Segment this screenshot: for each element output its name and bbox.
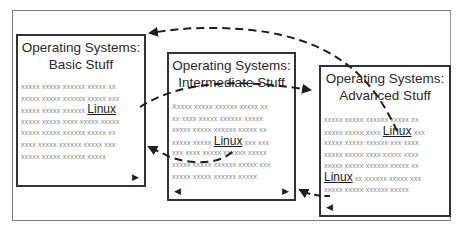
linux-link[interactable]: Linux (214, 134, 243, 148)
text-line: xxxxx xxxxx xxxx Linux xxx (324, 126, 446, 138)
text-line: xxxxx xxxxx xxxxxx xxxxx (172, 171, 291, 183)
text-line: xx xxxx xxxxx xxxxxx xxxxx (172, 113, 291, 125)
prev-page-arrow-icon[interactable]: ◀ (174, 186, 181, 196)
page-title: Operating Systems: Intermediate Stuff (169, 57, 294, 91)
text-line: xxxxx xxxxx xxxxxx xxx xxxx (324, 137, 446, 149)
text-line: xxxxx xxxxx xxxxxx xxxxx xxx (172, 159, 291, 171)
text-line: xxxxx xxxxx xxxx xxxxx xxxx (324, 149, 446, 161)
page-advanced-stuff: Operating Systems: Advanced Stuff xxxxx … (319, 65, 451, 217)
text-line: xxxxx xxxxx xxxxxx xxxxx xxx (21, 93, 141, 105)
title-line-2: Intermediate Stuff (171, 74, 292, 91)
next-page-arrow-icon[interactable]: ▶ (282, 186, 289, 196)
page-body: xxxxx xxxxx xxxxxx xxxxx xx xxxxx xxxxx … (18, 81, 144, 162)
text-line: xxxx xxxxx xxxxxx xxxxx xxx (21, 139, 141, 151)
page-intermediate-stuff: Operating Systems: Intermediate Stuff Xx… (167, 52, 296, 201)
text-line: xxxxx xxxxx xxxxxx xxxxx (21, 151, 141, 163)
title-line-1: Operating Systems: (171, 57, 292, 74)
linux-link[interactable]: Linux (324, 170, 353, 184)
linux-link[interactable]: Linux (383, 124, 412, 138)
next-page-arrow-icon[interactable]: ▶ (132, 172, 139, 182)
text-line: Xxxxx xxxxx xxxxxx xxxxx xx (172, 101, 291, 113)
page-title: Operating Systems: Basic Stuff (18, 39, 144, 73)
linux-link[interactable]: Linux (87, 102, 116, 116)
text-line: xxxxx xxxxx xxxxxx xxxxx xx (21, 127, 141, 139)
title-line-2: Advanced Stuff (323, 87, 447, 104)
page-body: xxxxx xxxxx xxxxxx xxxxx xx xxxxx xxxxx … (321, 114, 449, 195)
text-line: xxxxx xxxxx xxxxxx xxxxx xx (21, 81, 141, 93)
page-basic-stuff: Operating Systems: Basic Stuff xxxxx xxx… (16, 34, 146, 187)
text-line: xxxxx xxxxx xxxxxx xxxxx (324, 184, 446, 196)
text-line: xxx xxxx xxxxx xxxxxx xxxxx (172, 147, 291, 159)
text-line: Linux xx xxxxxx xxxxx xxx (324, 172, 446, 184)
title-line-2: Basic Stuff (20, 56, 142, 73)
page-body: Xxxxx xxxxx xxxxxx xxxxx xx xx xxxx xxxx… (169, 101, 294, 182)
prev-page-arrow-icon[interactable]: ◀ (326, 202, 333, 212)
text-line: xxxxx xxxxx xxxxxx Linux (21, 104, 141, 116)
text-line: xxxxx xxxxx xxxx xxxxx xxxxx (21, 116, 141, 128)
title-line-1: Operating Systems: (20, 39, 142, 56)
title-line-1: Operating Systems: (323, 70, 447, 87)
page-title: Operating Systems: Advanced Stuff (321, 70, 449, 104)
text-line: xxxxx xxxxx Linux xxx xxx (172, 136, 291, 148)
